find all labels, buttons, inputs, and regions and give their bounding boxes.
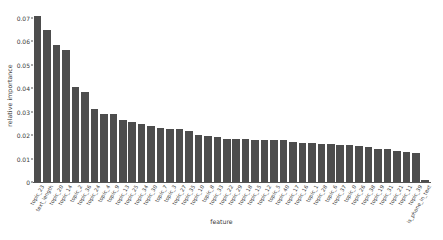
bar [299,143,307,182]
bar [166,129,174,182]
y-axis-tick-mark [31,41,33,42]
bar [261,140,269,182]
feature-importance-chart: relative importance 00.010.020.030.040.0… [0,0,443,240]
bar [185,131,193,182]
bar [34,16,42,182]
bar [393,151,401,182]
bar [318,144,326,182]
bar [223,139,231,182]
bar [384,149,392,182]
bar [365,147,373,182]
y-axis-tick-mark [31,111,33,112]
bar [100,114,108,182]
y-axis-tick-label: 0.04 [17,85,30,92]
bar [403,152,411,182]
x-axis-title: feature [0,218,443,225]
bar [81,92,89,182]
x-axis-title-text: feature [210,218,232,225]
y-axis-tick-label: 0.03 [17,108,30,115]
plot-area: 00.010.020.030.040.050.060.07 [33,12,430,182]
y-axis-tick-label: 0.02 [17,132,30,139]
bar [355,146,363,182]
y-axis-tick-label: 0 [26,179,30,186]
y-axis-tick-mark [31,64,33,65]
bar [91,109,99,182]
bar [280,140,288,182]
bar [412,153,420,182]
bar [157,128,165,182]
bar [110,114,118,182]
x-axis-line [33,182,431,183]
y-axis-title: relative importance [2,0,16,190]
bar [336,145,344,182]
bar [242,139,250,182]
y-axis-tick-label: 0.07 [17,14,30,21]
bar [289,142,297,182]
y-axis-tick-label: 0.05 [17,61,30,68]
y-axis-tick-mark [31,158,33,159]
bar [308,143,316,182]
bar [119,120,127,182]
bar [53,45,61,182]
y-axis-tick-mark [31,88,33,89]
y-axis-tick-mark [31,17,33,18]
bar [195,135,203,182]
y-axis-title-text: relative importance [6,64,13,127]
bar [128,122,136,182]
bar [251,140,259,182]
bar [62,50,70,182]
bar [176,129,184,182]
bar [232,139,240,182]
bar [72,87,80,182]
bar [43,30,51,182]
bar [270,140,278,182]
bar [204,136,212,182]
y-axis-tick-label: 0.01 [17,155,30,162]
bar [147,126,155,183]
y-axis-tick-label: 0.06 [17,38,30,45]
bar [374,149,382,182]
y-axis-tick-mark [31,135,33,136]
bar [214,137,222,182]
bar [327,144,335,182]
bar [346,145,354,182]
bar [138,124,146,182]
